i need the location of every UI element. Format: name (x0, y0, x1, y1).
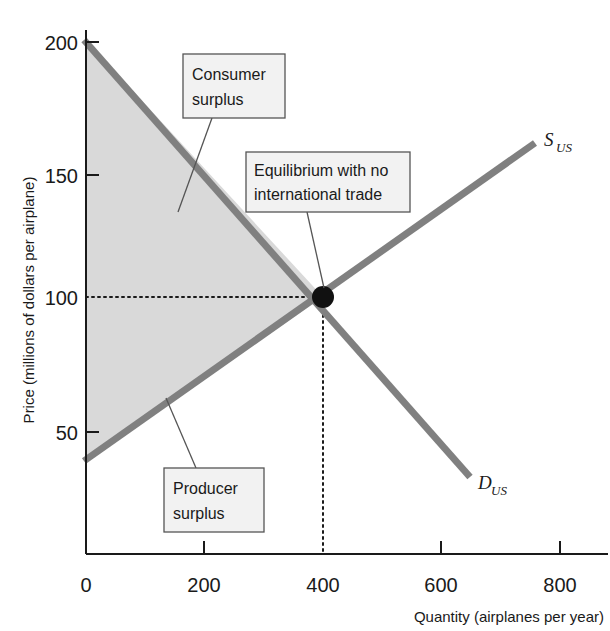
supply-curve-label-subscript: US (556, 140, 572, 155)
x-axis-title: Quantity (airplanes per year) (414, 608, 604, 625)
equilibrium-callout-line1: Equilibrium with no (254, 162, 388, 179)
x-tick-label-0: 0 (80, 574, 91, 596)
y-tick-label-100: 100 (45, 287, 78, 309)
x-tick-label-200: 200 (187, 574, 220, 596)
equilibrium-callout-box (246, 152, 410, 212)
consumer-surplus-callout-line1: Consumer (192, 66, 266, 83)
economics-figure: 200 150 100 50 0 200 400 600 800 Price (… (0, 0, 610, 631)
producer-surplus-callout-line2: surplus (173, 505, 225, 522)
consumer-surplus-callout[interactable]: Consumer surplus (183, 54, 285, 118)
supply-curve-label-base: S (544, 129, 554, 150)
y-tick-label-200: 200 (45, 32, 78, 54)
producer-surplus-callout-box (164, 468, 264, 532)
producer-surplus-callout[interactable]: Producer surplus (164, 468, 264, 532)
consumer-surplus-callout-box (183, 54, 285, 118)
y-axis-title: Price (millions of dollars per airplane) (20, 177, 37, 424)
demand-curve-label-base: D (477, 472, 492, 493)
x-tick-label-800: 800 (543, 574, 576, 596)
supply-demand-chart: 200 150 100 50 0 200 400 600 800 Price (… (0, 0, 610, 631)
consumer-surplus-callout-line2: surplus (192, 91, 244, 108)
equilibrium-point-dot (312, 286, 334, 308)
x-tick-label-600: 600 (424, 574, 457, 596)
x-tick-label-400: 400 (306, 574, 339, 596)
producer-surplus-callout-line1: Producer (173, 480, 239, 497)
y-tick-label-50: 50 (56, 422, 78, 444)
demand-curve-label-subscript: US (491, 483, 507, 498)
equilibrium-callout[interactable]: Equilibrium with no international trade (246, 152, 410, 212)
equilibrium-callout-line2: international trade (254, 186, 382, 203)
y-tick-label-150: 150 (45, 165, 78, 187)
